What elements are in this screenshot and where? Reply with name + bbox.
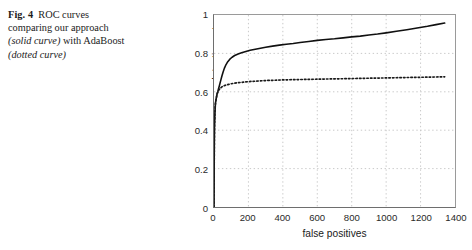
y-tick-label: 0 (182, 203, 208, 214)
x-tick-label: 0 (210, 212, 215, 223)
x-tick-label: 1400 (445, 212, 466, 223)
y-tick-label: 0.4 (182, 125, 208, 136)
x-axis-label: false positives (213, 228, 456, 239)
y-tick-label: 0.8 (182, 47, 208, 58)
x-tick-label: 1000 (376, 212, 397, 223)
y-tick-label: 0.2 (182, 164, 208, 175)
x-tick-label: 800 (344, 212, 360, 223)
figure-number: Fig. 4 (8, 9, 33, 20)
caption-title: ROC curves (38, 9, 89, 20)
figure-page: Fig. 4 ROC curves comparing our approach… (0, 0, 472, 250)
x-tick-label: 1200 (411, 212, 432, 223)
x-tick-label: 600 (309, 212, 325, 223)
roc-chart: detection rate 00.20.40.60.81 0200400600… (182, 0, 472, 250)
x-tick-label: 400 (274, 212, 290, 223)
y-tick-label: 0.6 (182, 86, 208, 97)
caption-line-2: comparing our approach (8, 22, 109, 33)
plot-area (213, 14, 456, 208)
gridlines (214, 15, 455, 207)
x-tick-label: 200 (240, 212, 256, 223)
y-tick-label: 1 (182, 9, 208, 20)
caption-dotted-curve-note: (dotted curve) (8, 49, 66, 60)
caption-line-3-mid: with AdaBoost (60, 35, 124, 46)
figure-caption: Fig. 4 ROC curves comparing our approach… (8, 8, 168, 61)
caption-solid-curve-note: (solid curve) (8, 35, 60, 46)
plot-canvas (214, 15, 455, 207)
